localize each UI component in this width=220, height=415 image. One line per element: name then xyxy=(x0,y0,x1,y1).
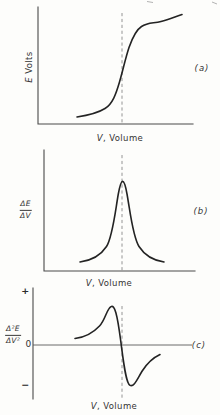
panel-b-tag: (b) xyxy=(193,207,208,216)
panel-c-y-numerator: Δ²E xyxy=(5,325,21,336)
panel-b-y-axis-label: ΔE ΔV xyxy=(19,200,31,220)
panel-a-y-var: E xyxy=(24,77,34,83)
scan-artifact xyxy=(147,2,153,3)
panel-a-y-axis-label: E Volts xyxy=(25,51,34,82)
panel-a-tag: (a) xyxy=(195,64,210,73)
panel-c-plus-sign: + xyxy=(21,286,29,296)
panel-a-sigmoid-curve xyxy=(77,15,182,118)
panel-c-minus-sign: − xyxy=(21,380,29,390)
panel-c-x-axis-label: V, Volume xyxy=(91,402,137,411)
panel-b-x-axis-label: V, Volume xyxy=(86,279,132,288)
panel-a-y-unit: Volts xyxy=(24,51,34,77)
panel-b-axes xyxy=(44,150,195,271)
panel-c-y-denominator: ΔV² xyxy=(6,336,20,346)
panel-a-axes xyxy=(38,7,193,124)
panel-a-x-axis-label: V, Volume xyxy=(97,134,143,143)
scan-artifact xyxy=(212,2,217,4)
panel-c-tag: (c) xyxy=(192,341,206,350)
panel-b-x-unit: , Volume xyxy=(92,278,132,288)
panel-c-second-derivative-curve xyxy=(75,306,160,385)
panel-a-x-unit: , Volume xyxy=(103,133,143,143)
figure-titration-curves: E Volts V, Volume (a) ΔE ΔV V, Volume (b… xyxy=(0,0,220,415)
panel-c-x-unit: , Volume xyxy=(97,401,137,411)
panel-b-y-denominator: ΔV xyxy=(20,211,31,221)
panel-c-zero-label: 0 xyxy=(25,340,31,349)
panel-c-y-axis-label: Δ²E ΔV² xyxy=(5,325,21,345)
panel-b-y-numerator: ΔE xyxy=(19,200,31,211)
